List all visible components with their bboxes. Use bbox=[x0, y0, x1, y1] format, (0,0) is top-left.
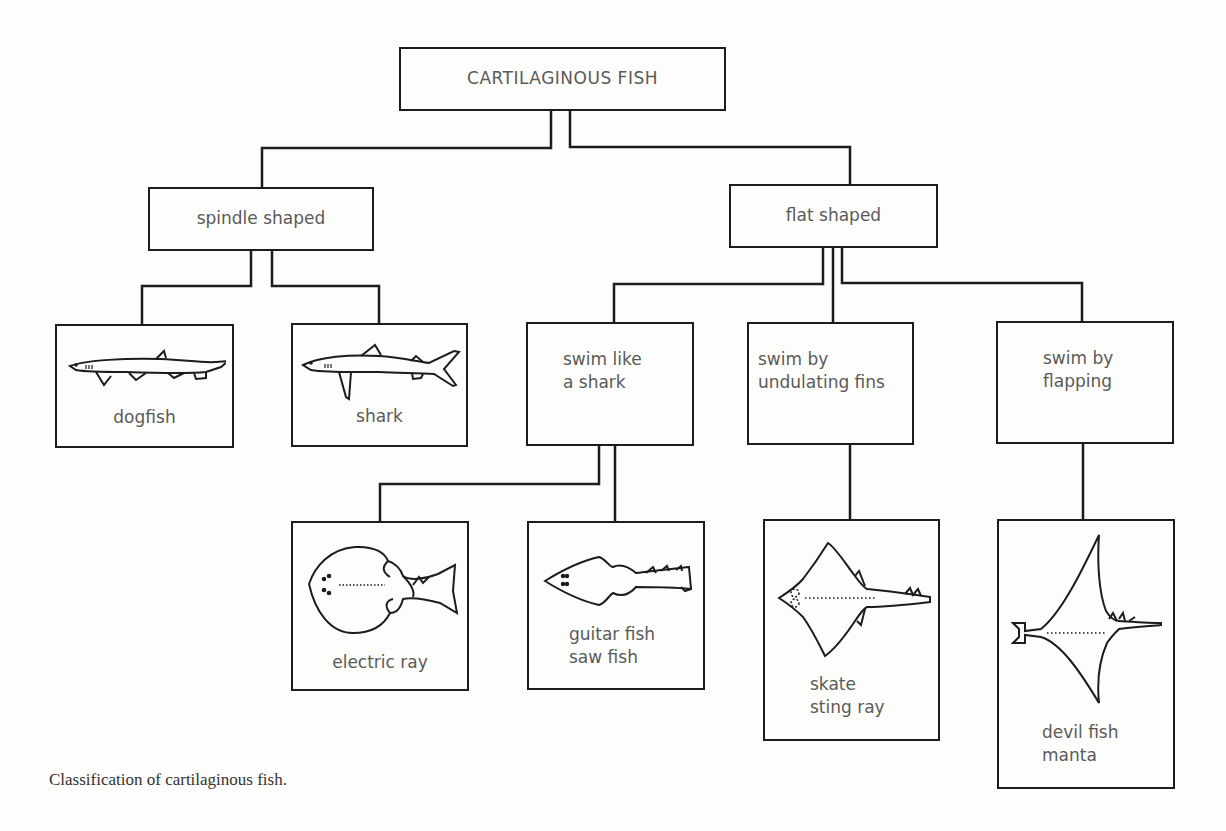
spindle-shaped-label: spindle shaped bbox=[150, 207, 372, 230]
flat-shaped-label: flat shaped bbox=[731, 204, 936, 227]
spindle-shaped-node: spindle shaped bbox=[148, 187, 374, 251]
skate-label: skate sting ray bbox=[810, 673, 885, 719]
manta-node: devil fish manta bbox=[997, 519, 1175, 789]
dogfish-node: dogfish bbox=[55, 324, 234, 448]
root-node: CARTILAGINOUS FISH bbox=[399, 47, 726, 111]
shark-icon bbox=[299, 339, 464, 404]
dogfish-icon bbox=[66, 348, 226, 393]
swim-like-shark-label: swim like a shark bbox=[563, 348, 642, 394]
classification-diagram: CARTILAGINOUS FISH spindle shaped flat s… bbox=[0, 0, 1226, 831]
manta-label: devil fish manta bbox=[1042, 721, 1119, 767]
swim-undulating-node: swim by undulating fins bbox=[747, 322, 914, 445]
guitar-fish-icon bbox=[541, 551, 701, 611]
flat-shaped-node: flat shaped bbox=[729, 184, 938, 248]
manta-icon bbox=[1011, 533, 1171, 713]
electric-ray-label: electric ray bbox=[293, 651, 467, 674]
skate-icon bbox=[775, 541, 935, 661]
skate-node: skate sting ray bbox=[763, 519, 940, 741]
shark-label: shark bbox=[293, 405, 466, 428]
shark-node: shark bbox=[291, 323, 468, 447]
electric-ray-icon bbox=[305, 541, 465, 641]
guitar-fish-label: guitar fish saw fish bbox=[569, 623, 655, 669]
figure-caption: Classification of cartilaginous fish. bbox=[49, 770, 287, 790]
swim-flapping-node: swim by flapping bbox=[996, 321, 1174, 444]
guitar-fish-node: guitar fish saw fish bbox=[527, 521, 705, 690]
electric-ray-node: electric ray bbox=[291, 521, 469, 691]
swim-like-shark-node: swim like a shark bbox=[526, 322, 694, 446]
root-label: CARTILAGINOUS FISH bbox=[401, 67, 724, 90]
swim-flapping-label: swim by flapping bbox=[1043, 347, 1113, 393]
dogfish-label: dogfish bbox=[57, 406, 232, 429]
swim-undulating-label: swim by undulating fins bbox=[758, 348, 885, 394]
